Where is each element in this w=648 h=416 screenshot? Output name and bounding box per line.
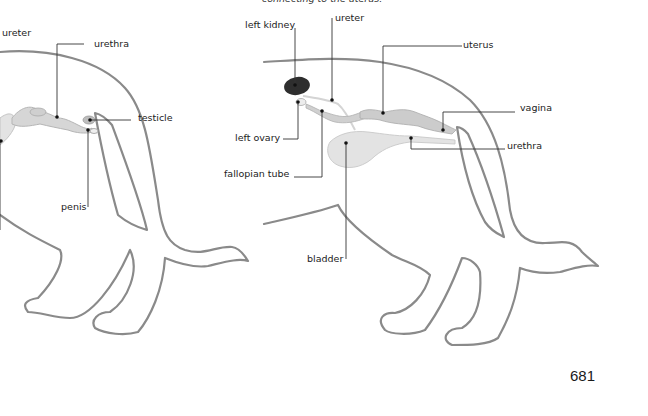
figure-caption: connecting to the uterus. bbox=[262, 0, 382, 4]
label-penis: penis bbox=[61, 201, 87, 212]
ureter-shape bbox=[303, 96, 355, 130]
label-male-ureter: ureter bbox=[2, 27, 31, 38]
uterus-dot bbox=[381, 111, 385, 115]
page-number: 681 bbox=[570, 367, 595, 384]
vagina-leader bbox=[443, 112, 515, 130]
label-bladder: bladder bbox=[307, 253, 343, 264]
fallopian-tube-shape bbox=[306, 104, 366, 123]
label-left-kidney: left kidney bbox=[245, 19, 295, 30]
female-dog-diagram: left kidney ureter uterus vagina left ov… bbox=[224, 12, 598, 345]
label-left-ovary: left ovary bbox=[235, 132, 281, 143]
label-vagina: vagina bbox=[520, 102, 552, 113]
label-testicle: testicle bbox=[138, 112, 173, 123]
testicle-dot bbox=[88, 118, 92, 122]
male-dog-diagram: ureter urethra testicle penis bbox=[0, 27, 248, 334]
left-ovary-dot bbox=[296, 100, 300, 104]
vagina-dot bbox=[441, 128, 445, 132]
bladder-dot bbox=[344, 141, 348, 145]
uterus-leader bbox=[383, 46, 462, 113]
penis-dot bbox=[86, 128, 90, 132]
reproductive-anatomy-figure: connecting to the uterus. ureter urethra… bbox=[0, 0, 648, 416]
male-urethra-dot bbox=[55, 115, 59, 119]
female-urethra-dot bbox=[409, 136, 413, 140]
left-kidney-dot bbox=[293, 83, 297, 87]
bladder-shape bbox=[328, 131, 455, 167]
penis-tip bbox=[90, 129, 98, 134]
label-fallopian-tube: fallopian tube bbox=[224, 168, 290, 179]
male-prostate bbox=[30, 108, 46, 116]
male-dog-hind-leg-outline bbox=[95, 113, 147, 230]
label-female-ureter: ureter bbox=[335, 12, 364, 23]
label-uterus: uterus bbox=[463, 39, 494, 50]
label-female-urethra: urethra bbox=[507, 140, 542, 151]
female-ureter-dot bbox=[330, 98, 334, 102]
fallopian-tube-dot bbox=[320, 109, 324, 113]
left-kidney-shape bbox=[283, 75, 312, 97]
left-ovary-leader bbox=[283, 102, 298, 139]
male-dog-back-outline bbox=[0, 51, 248, 334]
male-urethra-tube bbox=[12, 107, 93, 133]
label-male-urethra: urethra bbox=[94, 38, 129, 49]
